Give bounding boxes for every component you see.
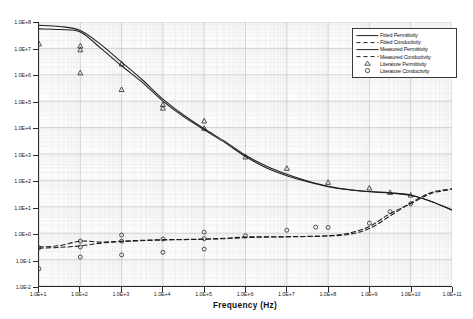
legend-label: Fitted Permittivity: [380, 32, 418, 38]
y-tick-label: 1.0E-1: [16, 258, 31, 264]
x-tick-mark: [286, 287, 287, 292]
legend-item: Measured Conductivity: [355, 53, 453, 60]
y-tick-label: 1.0E+6: [14, 72, 31, 78]
legend-item: Literature Permittivity: [355, 60, 453, 67]
solid-line-icon: [355, 46, 380, 53]
y-tick-mark: [33, 102, 38, 103]
dashed-line-icon: [355, 39, 380, 46]
legend-label: Literature Conductivity: [380, 68, 429, 74]
circle-marker-icon: [355, 67, 380, 74]
x-tick-mark: [121, 287, 122, 292]
y-tick-mark: [33, 22, 38, 23]
y-tick-label: 1.0E+8: [14, 19, 31, 25]
x-tick-mark: [245, 287, 246, 292]
legend-item: Measured Permittivity: [355, 46, 453, 53]
y-tick-mark: [33, 49, 38, 50]
y-tick-mark: [33, 128, 38, 129]
y-tick-mark: [33, 234, 38, 235]
x-tick-mark: [369, 287, 370, 292]
dashed-line-icon: [355, 53, 380, 60]
triangle-marker-icon: [355, 60, 380, 67]
legend-label: Fitted Conductivity: [380, 39, 421, 45]
legend-item: Fitted Conductivity: [355, 39, 453, 46]
y-tick-label: 1.0E+0: [14, 231, 31, 237]
legend-label: Measured Permittivity: [380, 46, 428, 52]
y-tick-mark: [33, 208, 38, 209]
x-tick-mark: [79, 287, 80, 292]
legend-item: Fitted Permittivity: [355, 32, 453, 39]
y-tick-mark: [33, 75, 38, 76]
y-tick-label: 1.0E+5: [14, 99, 31, 105]
y-tick-label: 1.0E+3: [14, 152, 31, 158]
x-tick-mark: [328, 287, 329, 292]
x-tick-mark: [204, 287, 205, 292]
solid-line-icon: [355, 32, 380, 39]
chart-figure: Frequency (Hz) Fitted PermittivityFitted…: [0, 0, 473, 319]
legend-item: Literature Conductivity: [355, 67, 453, 74]
legend-label: Literature Permittivity: [380, 61, 426, 67]
x-tick-mark: [411, 287, 412, 292]
y-tick-mark: [33, 181, 38, 182]
x-axis-title: Frequency (Hz): [38, 300, 452, 310]
x-tick-mark: [162, 287, 163, 292]
x-tick-mark: [38, 287, 39, 292]
y-tick-mark: [33, 155, 38, 156]
y-tick-label: 1.0E+2: [14, 178, 31, 184]
legend: Fitted PermittivityFitted ConductivityMe…: [352, 28, 457, 78]
y-tick-mark: [33, 261, 38, 262]
legend-label: Measured Conductivity: [380, 54, 431, 60]
y-tick-label: 1.0E+7: [14, 46, 31, 52]
x-tick-mark: [452, 287, 453, 292]
y-tick-label: 1.0E-2: [16, 284, 31, 290]
y-tick-label: 1.0E+4: [14, 125, 31, 131]
y-tick-label: 1.0E+1: [14, 205, 31, 211]
